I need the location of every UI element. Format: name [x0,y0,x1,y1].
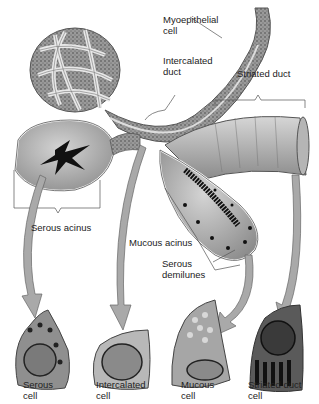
cell-label-line2: cell [181,390,214,401]
mucous-acinus-label: Mucous acinus [129,237,192,248]
intercalated-bracket [145,95,175,120]
intercalated-line2: duct [163,66,213,77]
myoepithelial-line2: cell [163,25,218,36]
demilunes-line1: Serous [162,258,205,269]
serous-demilunes-label: Serous demilunes [162,258,205,280]
intercalated-line1: Intercalated [163,55,213,66]
serous-cell-drawing [16,310,70,389]
striated-duct-cell-label: Striated duct cell [248,379,301,401]
striated-duct-label: Striated duct [237,68,290,79]
intercalated-duct-label: Intercalated duct [163,55,213,77]
cell-label-line1: Mucous [181,379,214,390]
myoepithelial-cell-label: Myoepithelial cell [163,14,218,36]
mucous-cell-label: Mucous cell [181,379,214,401]
myoepithelial-acinus [30,28,120,112]
cell-label-line1: Intercalated [96,379,146,390]
demilunes-line2: demilunes [162,269,205,280]
serous-acinus-label: Serous acinus [31,222,91,233]
gland-illustration [0,0,319,404]
cell-label-line1: Serous [23,379,53,390]
cell-label-line1: Striated duct [248,379,301,390]
cell-label-line2: cell [96,390,146,401]
cell-label-line2: cell [248,390,301,401]
intercalated-cell-label: Intercalated cell [96,379,146,401]
serous-acinus-shape [15,120,140,191]
serous-cell-label: Serous cell [23,379,53,401]
cell-label-line2: cell [23,390,53,401]
myoepithelial-line1: Myoepithelial [163,14,218,25]
